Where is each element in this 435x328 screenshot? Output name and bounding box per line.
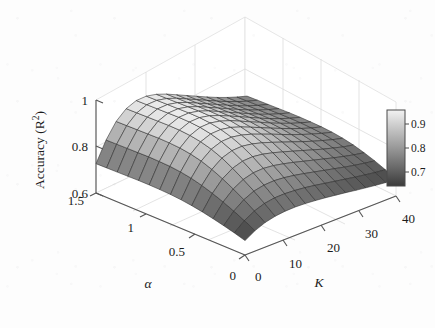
alpha-tick-label-1.5: 1.5 xyxy=(68,193,84,208)
colorbar: 0.9 0.8 0.7 xyxy=(387,110,426,186)
alpha-axis-label: α xyxy=(144,276,152,291)
k-tick-label-0: 0 xyxy=(255,269,262,284)
k-axis-label: K xyxy=(313,275,324,290)
z-axis-label: Accuracy (R2) xyxy=(31,111,47,189)
k-tick-label-20: 20 xyxy=(327,240,340,255)
colorbar-ticks xyxy=(405,124,409,172)
k-tick-label-10: 10 xyxy=(289,256,302,271)
k-tick-label-30: 30 xyxy=(365,226,378,241)
colorbar-gradient xyxy=(387,110,405,186)
alpha-tick-label-0.5: 0.5 xyxy=(169,244,185,259)
alpha-tick-label-1: 1 xyxy=(128,220,135,235)
svg-text:Accuracy (R2): Accuracy (R2) xyxy=(31,111,47,189)
z-tick-label-0.8: 0.8 xyxy=(72,139,88,154)
colorbar-tick-label-0.9: 0.9 xyxy=(411,118,426,130)
figure-container: 1 0.8 0.6 Accuracy (R2) 1.5 1 0.5 0 α xyxy=(0,0,435,328)
z-axis-label-close: ) xyxy=(32,111,47,116)
colorbar-tick-label-0.8: 0.8 xyxy=(411,142,426,154)
z-axis-label-main: Accuracy (R xyxy=(32,120,47,189)
k-tick-label-40: 40 xyxy=(402,211,415,226)
z-tick-label-1: 1 xyxy=(82,93,89,108)
surface-plot: 1 0.8 0.6 Accuracy (R2) 1.5 1 0.5 0 α xyxy=(0,0,435,328)
colorbar-tick-label-0.7: 0.7 xyxy=(411,166,426,178)
alpha-tick-label-0: 0 xyxy=(230,268,237,283)
